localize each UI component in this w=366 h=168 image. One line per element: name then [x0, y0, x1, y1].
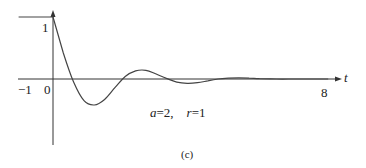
x-tick-minus-1: −1: [18, 83, 32, 96]
y-tick-1: 1: [42, 21, 49, 34]
response-curve: [19, 17, 329, 105]
chart-plot: [0, 0, 366, 168]
x-axis-label: t: [344, 71, 348, 84]
param-a-value: =2,: [157, 105, 174, 120]
param-r-value: =1: [192, 105, 206, 120]
parameter-annotation: a=2, r=1: [150, 106, 206, 119]
figure-caption: (c): [181, 149, 193, 160]
x-tick-8: 8: [321, 86, 328, 99]
x-axis-arrow-icon: [335, 77, 342, 82]
y-axis-arrow-icon: [51, 10, 56, 17]
x-tick-0: 0: [44, 83, 51, 96]
